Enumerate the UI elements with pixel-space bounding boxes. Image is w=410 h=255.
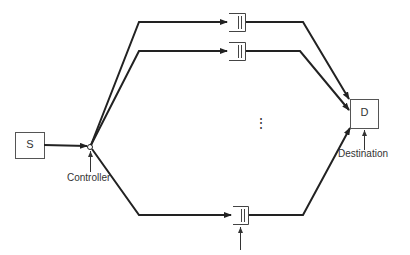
queue-2-to-destination-arrow — [246, 51, 349, 110]
destination-label: D — [350, 106, 379, 118]
controller-to-queue-2-arrow — [91, 51, 227, 145]
queue-concentrator-2 — [229, 43, 246, 61]
network-diagram — [0, 0, 410, 255]
controller-to-queue-q-arrow — [92, 149, 231, 215]
destination-text: Destination — [338, 148, 388, 159]
controller-to-queue-1-arrow — [91, 22, 227, 145]
ellipsis-dots: ⋮ — [254, 115, 268, 131]
queue-q-to-destination-arrow — [249, 128, 350, 215]
controller-text: Controller — [67, 172, 110, 183]
source-label: S — [15, 138, 45, 150]
source-to-controller-arrow — [44, 145, 87, 146]
queue-concentrator-q — [233, 207, 249, 225]
queue-concentrator-1 — [229, 14, 246, 32]
queue-1-to-destination-arrow — [246, 22, 349, 99]
